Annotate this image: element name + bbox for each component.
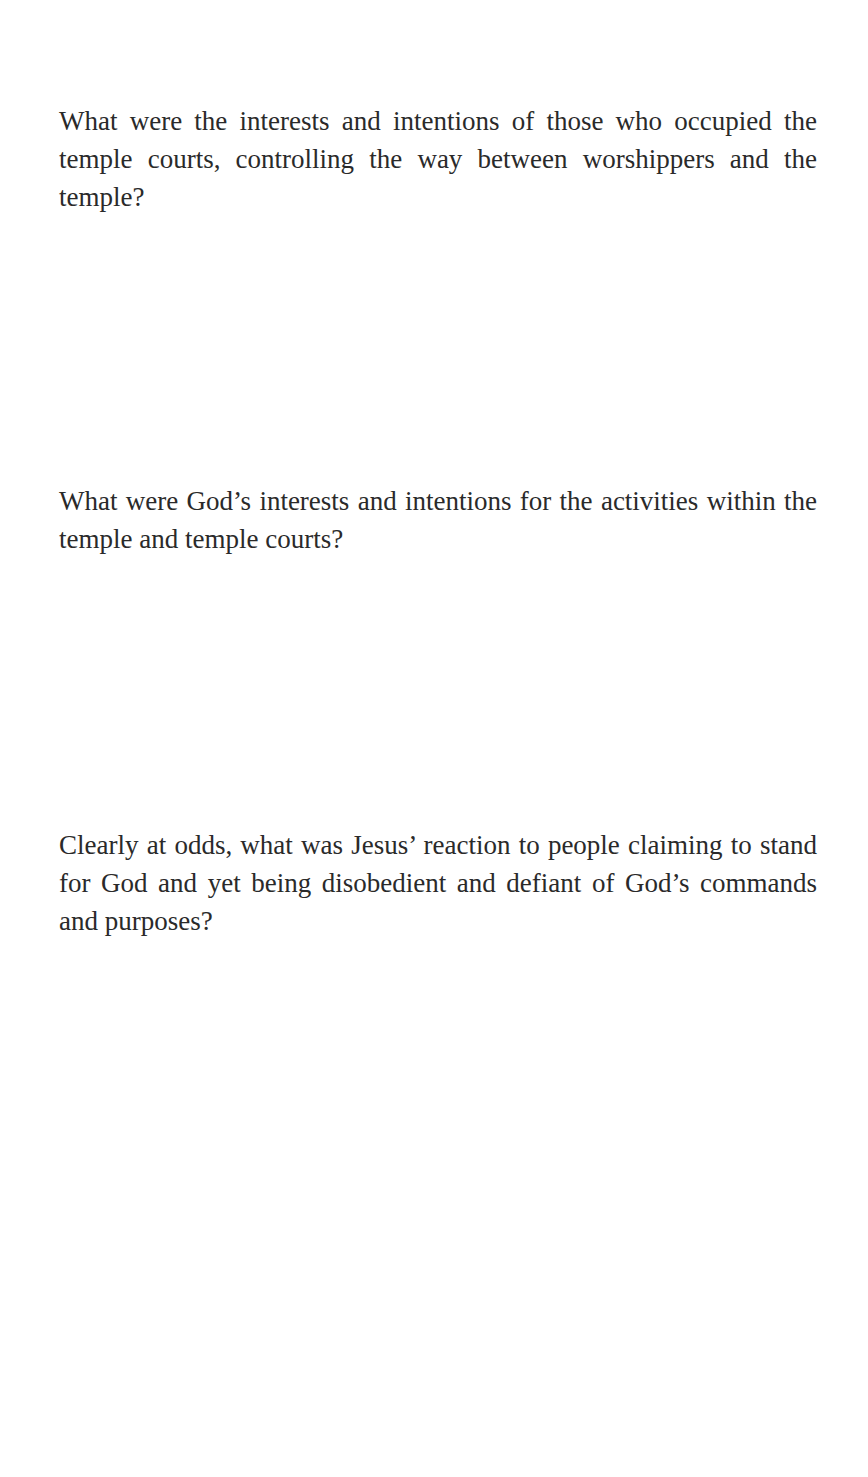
question-3: Clearly at odds, what was Jesus’ reactio… [59,826,817,940]
question-2: What were God’s interests and intentions… [59,482,817,558]
question-1: What were the interests and intentions o… [59,102,817,216]
document-page: What were the interests and intentions o… [0,0,868,1477]
